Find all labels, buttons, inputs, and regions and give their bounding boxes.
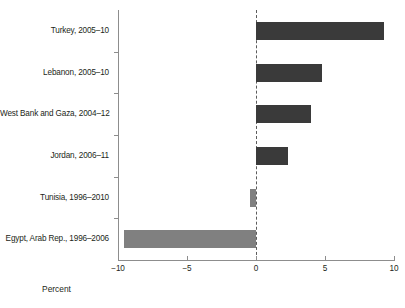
x-axis-tick	[325, 256, 326, 261]
x-axis-tick	[187, 256, 188, 261]
x-axis-tick-label: 0	[254, 264, 258, 274]
bar	[124, 230, 256, 248]
category-label: Egypt, Arab Rep., 1996–2006	[0, 234, 109, 244]
bar-chart: Turkey, 2005–10Lebanon, 2005–10West Bank…	[0, 0, 405, 308]
category-axis-labels: Turkey, 2005–10Lebanon, 2005–10West Bank…	[0, 10, 113, 260]
category-label: Lebanon, 2005–10	[0, 68, 109, 78]
bar	[256, 22, 384, 40]
y-axis-tick	[114, 52, 118, 53]
category-label: Jordan, 2006–11	[0, 151, 109, 161]
category-label: Turkey, 2005–10	[0, 26, 109, 36]
category-label: Tunisia, 1996–2010	[0, 193, 109, 203]
x-axis-tick	[256, 256, 257, 261]
category-label: West Bank and Gaza, 2004–12	[0, 109, 109, 119]
x-axis-tick-label: −10	[111, 264, 125, 274]
y-axis-tick	[114, 218, 118, 219]
bar	[256, 147, 288, 165]
x-axis-tick-label: 5	[323, 264, 327, 274]
bar	[250, 189, 256, 207]
x-axis-tick	[118, 256, 119, 261]
x-axis-title-text: Percent	[42, 284, 71, 294]
plot-area	[118, 10, 394, 260]
zero-reference-line	[256, 10, 257, 260]
y-axis-spine	[118, 10, 119, 260]
x-axis-title: Percent	[0, 284, 405, 294]
x-axis-tick	[394, 256, 395, 261]
bar	[256, 105, 311, 123]
y-axis-tick	[114, 93, 118, 94]
y-axis-tick	[114, 135, 118, 136]
bar	[256, 64, 322, 82]
x-axis-tick-label: −5	[182, 264, 191, 274]
y-axis-tick	[114, 177, 118, 178]
x-axis-tick-label: 10	[390, 264, 399, 274]
